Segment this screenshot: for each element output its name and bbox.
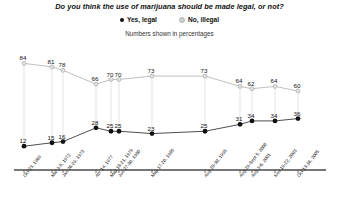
value-label-no-illegal: 73 xyxy=(201,67,208,74)
value-label-no-illegal: 64 xyxy=(236,77,243,84)
value-label-no-illegal: 70 xyxy=(107,71,114,78)
value-label-no-illegal: 78 xyxy=(59,61,66,68)
value-label-yes-legal: 25 xyxy=(201,122,208,129)
plot-area xyxy=(0,0,339,224)
value-label-yes-legal: 23 xyxy=(148,125,155,132)
value-label-yes-legal: 28 xyxy=(92,119,99,126)
value-label-no-illegal: 66 xyxy=(92,75,99,82)
value-label-yes-legal: 12 xyxy=(20,137,27,144)
value-label-no-illegal: 60 xyxy=(294,82,301,89)
value-label-yes-legal: 31 xyxy=(236,115,243,122)
value-label-yes-legal: 34 xyxy=(248,112,255,119)
value-label-no-illegal: 84 xyxy=(20,54,27,61)
value-label-yes-legal: 34 xyxy=(271,112,278,119)
value-label-no-illegal: 70 xyxy=(115,71,122,78)
value-label-no-illegal: 64 xyxy=(271,77,278,84)
value-label-yes-legal: 16 xyxy=(59,133,66,140)
value-label-yes-legal: 25 xyxy=(107,122,114,129)
value-label-no-illegal: 73 xyxy=(148,67,155,74)
value-label-yes-legal: 15 xyxy=(48,134,55,141)
chart-container: Do you think the use of marijuana should… xyxy=(0,0,339,224)
value-label-yes-legal: 25 xyxy=(115,122,122,129)
chart-svg xyxy=(0,0,339,224)
value-label-no-illegal: 81 xyxy=(48,58,55,65)
value-label-no-illegal: 62 xyxy=(248,80,255,87)
value-label-yes-legal: 36 xyxy=(294,110,301,117)
